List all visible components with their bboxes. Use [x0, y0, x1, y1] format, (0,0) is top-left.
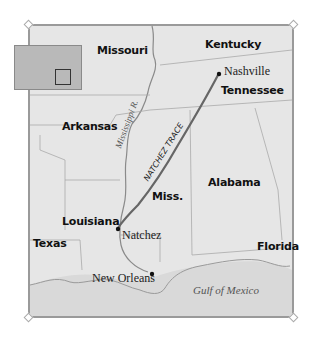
- state-label-alabama: Alabama: [208, 176, 261, 189]
- state-label-texas: Texas: [33, 237, 67, 250]
- state-label-missouri: Missouri: [97, 44, 148, 57]
- state-label-kentucky: Kentucky: [205, 38, 261, 51]
- city-label-new-orleans: New Orleans: [92, 271, 155, 286]
- water-label-gulf-of-mexico: Gulf of Mexico: [193, 284, 259, 296]
- nashville-dot: [217, 72, 221, 76]
- state-label-florida: Florida: [257, 240, 299, 253]
- state-label-tennessee: Tennessee: [221, 84, 284, 97]
- state-label-mississippi: Miss.: [152, 190, 183, 203]
- state-label-arkansas: Arkansas: [62, 120, 117, 133]
- city-label-natchez: Natchez: [122, 228, 161, 243]
- state-label-louisiana: Louisiana: [62, 215, 119, 228]
- city-label-nashville: Nashville: [224, 64, 270, 79]
- inset-highlight-box: [55, 69, 71, 85]
- inset-us-map: [14, 45, 82, 90]
